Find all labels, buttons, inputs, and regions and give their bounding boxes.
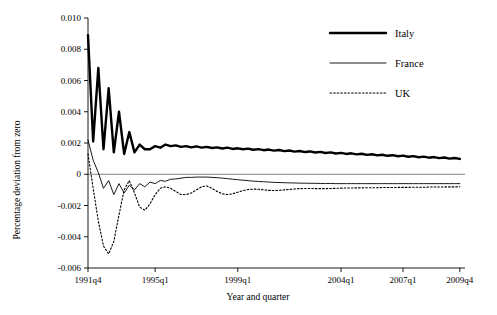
x-tick-label: 1995q1 xyxy=(142,275,169,285)
line-chart: -0.006-0.004-0.00200.0020.0040.0060.0080… xyxy=(0,0,497,315)
y-tick-label: -0.006 xyxy=(58,263,82,273)
x-tick-label: 2009q4 xyxy=(446,275,474,285)
x-axis-label: Year and quarter xyxy=(227,292,291,302)
chart-container: -0.006-0.004-0.00200.0020.0040.0060.0080… xyxy=(0,0,497,315)
y-axis-label: Percentage deviation from zero xyxy=(12,120,22,239)
y-tick-label: 0.008 xyxy=(61,44,82,54)
x-tick-label: 1991q4 xyxy=(75,275,103,285)
legend-label-uk: UK xyxy=(395,88,411,99)
axes xyxy=(88,18,465,268)
y-tick-label: 0.002 xyxy=(61,138,81,148)
y-tick-label: 0.010 xyxy=(61,13,82,23)
series-line-uk xyxy=(88,154,460,254)
y-tick-label: 0.004 xyxy=(61,107,82,117)
y-tick-label: -0.002 xyxy=(58,201,81,211)
legend-label-italy: Italy xyxy=(395,28,415,39)
x-tick-label: 1999q1 xyxy=(224,275,251,285)
y-tick-label: 0.006 xyxy=(61,76,82,86)
legend: ItalyFranceUK xyxy=(330,28,424,99)
x-tick-label: 2004q1 xyxy=(328,275,355,285)
legend-label-france: France xyxy=(395,58,424,69)
x-tick-label: 2007q1 xyxy=(390,275,417,285)
y-tick-label: -0.004 xyxy=(58,232,82,242)
y-tick-label: 0 xyxy=(77,169,82,179)
